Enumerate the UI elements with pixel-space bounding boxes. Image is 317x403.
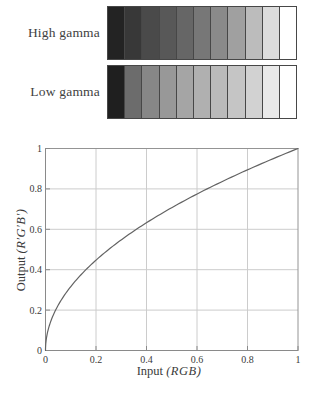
- high-gamma-label: High gamma: [0, 6, 100, 60]
- y-tick-label: 0.8: [10, 183, 42, 194]
- x-axis-label: Input (RGB): [137, 364, 202, 379]
- low-gamma-label: Low gamma: [0, 65, 100, 119]
- gamma-segment: [227, 66, 244, 118]
- y-tick-label: 0.2: [10, 305, 42, 316]
- high-gamma-strip: [107, 6, 297, 60]
- gamma-segment: [245, 7, 262, 59]
- gamma-segment: [108, 7, 124, 59]
- gamma-segment: [124, 7, 141, 59]
- gamma-segment: [210, 7, 227, 59]
- gamma-segment: [108, 66, 124, 118]
- gamma-segment: [279, 7, 296, 59]
- y-axis-label: Output (R′G′B′): [14, 209, 29, 292]
- high-gamma-row: High gamma: [0, 6, 317, 60]
- x-axis-label-roman: Input: [137, 364, 163, 378]
- gamma-segment: [262, 7, 279, 59]
- x-tick-label: 0.8: [233, 354, 263, 365]
- gamma-segment: [141, 66, 158, 118]
- x-tick-label: 1: [283, 354, 313, 365]
- gamma-segment: [124, 66, 141, 118]
- gamma-segment: [141, 7, 158, 59]
- gamma-segment: [210, 66, 227, 118]
- gamma-segment: [176, 66, 193, 118]
- gamma-segment: [245, 66, 262, 118]
- gamma-segment: [159, 66, 176, 118]
- y-tick-label: 0: [10, 345, 42, 356]
- gamma-segment: [176, 7, 193, 59]
- low-gamma-strip: [107, 65, 297, 119]
- y-tick-label: 1: [10, 143, 42, 154]
- gamma-segment: [227, 7, 244, 59]
- gamma-curve: [46, 149, 299, 351]
- low-gamma-row: Low gamma: [0, 65, 317, 119]
- gamma-segment: [279, 66, 296, 118]
- gamma-segment: [262, 66, 279, 118]
- y-axis-label-roman: Output: [14, 257, 28, 292]
- gamma-segment: [193, 7, 210, 59]
- x-axis-label-italic: (RGB): [166, 364, 201, 378]
- gamma-segment: [159, 7, 176, 59]
- x-tick-label: 0.2: [81, 354, 111, 365]
- y-axis-label-italic: (R′G′B′): [14, 209, 28, 254]
- gamma-segment: [193, 66, 210, 118]
- plot-box: [46, 149, 299, 351]
- gamma-curve-plot: [0, 0, 317, 403]
- gamma-figure: High gamma Low gamma 00.20.40.60.8100.20…: [0, 0, 317, 403]
